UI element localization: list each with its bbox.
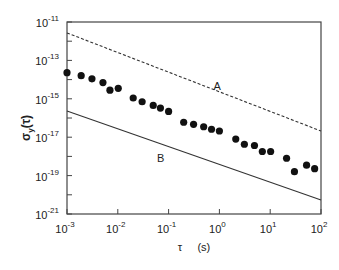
y-tick-label: 10-15 (35, 91, 59, 106)
data-point (190, 121, 197, 128)
data-point (283, 155, 290, 162)
y-axis-label: σy(τ) (19, 115, 35, 141)
data-point (208, 126, 215, 133)
label-a: A (213, 80, 221, 92)
data-point (130, 94, 137, 101)
data-points (63, 69, 318, 175)
reference-lines (67, 33, 321, 200)
data-point (267, 148, 274, 155)
line-labels: AB (157, 80, 221, 165)
data-point (88, 75, 95, 82)
data-point (311, 165, 318, 172)
data-point (232, 135, 239, 142)
x-tick-label: 100 (209, 220, 226, 235)
x-axis-label: τ (s) (178, 241, 210, 253)
y-tick-label: 10-11 (36, 14, 60, 29)
x-tick-label: 10-1 (157, 220, 177, 235)
data-point (216, 127, 223, 134)
data-point (106, 87, 113, 94)
data-point (115, 85, 122, 92)
data-point (165, 108, 172, 115)
data-point (139, 98, 146, 105)
data-point (150, 102, 157, 109)
plot-frame (67, 22, 321, 214)
x-axis-ticks: 10-310-210-1100101102 (55, 209, 328, 235)
data-point (63, 69, 70, 76)
data-point (180, 119, 187, 126)
label-b: B (157, 152, 164, 164)
data-point (99, 79, 106, 86)
x-tick-label: 101 (260, 220, 277, 235)
x-tick-label: 10-3 (55, 220, 75, 235)
y-tick-label: 10-17 (35, 129, 59, 144)
data-point (303, 162, 310, 169)
x-tick-label: 10-2 (106, 220, 126, 235)
data-point (251, 142, 258, 149)
data-point (241, 141, 248, 148)
y-tick-label: 10-21 (35, 206, 59, 221)
data-point (291, 168, 298, 175)
data-point (200, 123, 207, 130)
x-tick-label: 102 (311, 220, 328, 235)
data-point (157, 104, 164, 111)
y-tick-label: 10-19 (35, 168, 59, 183)
data-point (78, 72, 85, 79)
y-tick-label: 10-13 (35, 52, 59, 67)
data-point (259, 148, 266, 155)
sigma-tau-chart: 10-1110-1310-1510-1710-1910-21 10-310-21… (0, 0, 339, 270)
